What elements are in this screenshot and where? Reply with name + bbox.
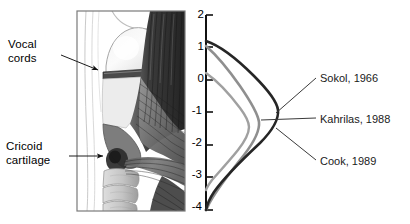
plot-panel — [206, 15, 316, 210]
curve-kahrilas-1988 — [206, 46, 259, 210]
figure-container: Vocalcords Cricoidcartilage Sokol, 1966 … — [0, 0, 410, 224]
cricoid-knob-core — [109, 151, 121, 164]
leader-line-cook — [276, 128, 316, 160]
anatomy-illustration — [77, 11, 185, 214]
figure-svg — [0, 0, 410, 224]
leader-line-kahrilas — [261, 118, 316, 120]
leader-line-sokol — [276, 78, 316, 113]
curve-sokol-1966 — [206, 41, 278, 210]
tracheal-ring-3 — [103, 201, 137, 214]
thyroid-highlight — [113, 36, 139, 60]
